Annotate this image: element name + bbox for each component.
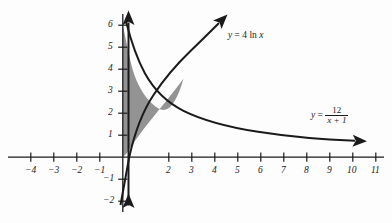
- rational-curve-label: y = 12 x + 1: [311, 106, 348, 126]
- y-tick-label-1: 1: [108, 130, 113, 140]
- log-label-eq: = 4 ln: [232, 30, 259, 40]
- fraction-denominator: x + 1: [325, 115, 348, 125]
- rational-label-eq: =: [315, 110, 325, 120]
- x-tick-label--3: −3: [48, 166, 59, 176]
- x-tick-label-4: 4: [212, 166, 217, 176]
- y-tick-label--2: −2: [103, 196, 114, 206]
- x-tick-label-7: 7: [281, 166, 286, 176]
- x-tick-label-8: 8: [304, 166, 309, 176]
- graph-figure: −4 −3 −2 −1 2 3 4 5 6 7 8 9 10 11 6 5 4 …: [0, 0, 392, 223]
- y-tick-label-5: 5: [108, 42, 113, 52]
- log-curve-label: y = 4 ln x: [228, 31, 263, 41]
- x-tick-label-6: 6: [258, 166, 263, 176]
- fraction-numerator: 12: [325, 106, 348, 115]
- y-tick-label-2: 2: [108, 108, 113, 118]
- x-tick-label-2: 2: [166, 166, 171, 176]
- x-tick-label-3: 3: [189, 166, 194, 176]
- y-tick-label--1: −1: [103, 174, 114, 184]
- x-tick-label--4: −4: [25, 166, 36, 176]
- x-tick-label-10: 10: [347, 166, 357, 176]
- rational-label-fraction: 12 x + 1: [325, 106, 348, 126]
- x-tick-label-5: 5: [235, 166, 240, 176]
- x-tick-label-9: 9: [327, 166, 332, 176]
- x-tick-label--2: −2: [71, 166, 82, 176]
- y-tick-label-4: 4: [108, 64, 113, 74]
- y-tick-label-3: 3: [108, 86, 113, 96]
- log-label-arg: x: [259, 30, 263, 40]
- y-tick-label-6: 6: [108, 20, 113, 30]
- x-tick-label-11: 11: [371, 166, 380, 176]
